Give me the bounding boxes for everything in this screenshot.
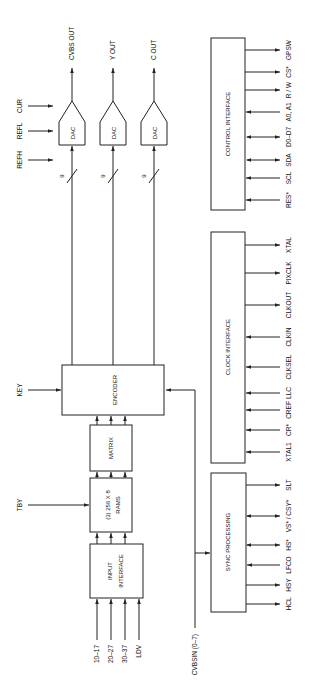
key-label: KEY xyxy=(16,383,23,397)
clock-interface-block: CLOCK INTERFACE XTAL PIXCLK CLKOUT CLKIN… xyxy=(211,232,292,463)
rams-label-line2: RAMS xyxy=(115,496,121,513)
slt-label: SLT xyxy=(285,479,292,490)
gpsw-label: GPSW xyxy=(285,39,292,60)
refh-label: REFH xyxy=(16,151,23,169)
cvbs-out-label: CVBS OUT xyxy=(68,27,75,60)
cvbsin-bus: CVBSIN (0–7) xyxy=(166,390,210,675)
sda-label: SDA xyxy=(285,153,292,167)
dac-2-label: DAC xyxy=(111,126,117,139)
hcl-label: HCL xyxy=(285,597,292,610)
a0-a1-label: A0, A1 xyxy=(285,102,292,122)
encoder-block: ENCODER KEY xyxy=(16,365,164,415)
dac-3: DAC C OUT xyxy=(141,40,167,145)
y-out-label: Y OUT xyxy=(109,40,116,60)
matrix-block: MATRIX xyxy=(90,416,132,471)
vs-csy-label: VS* / CSY* xyxy=(285,499,292,532)
cr-label: CR* xyxy=(285,424,292,436)
lfco-label: LFCO xyxy=(285,556,292,573)
sync-processing-block: SYNC PROCESSING SLT VS* / CSY* HS* LFCO … xyxy=(211,473,292,612)
control-interface-block: CONTROL INTERFACE GPSW CS* R / W A0, A1 … xyxy=(211,38,292,210)
tby-label: TBY xyxy=(16,498,23,511)
bus-width-2: 9 xyxy=(100,174,106,178)
dac-2: DAC Y OUT xyxy=(100,40,126,145)
input-10-17-label: 10–17 xyxy=(93,645,100,663)
input-20-27-label: 20–27 xyxy=(107,645,114,663)
c-out-label: C OUT xyxy=(150,40,157,60)
d0-d7-label: D0–D7 xyxy=(285,126,292,147)
matrix-label: MATRIX xyxy=(108,437,114,459)
input-30-37-label: 30–37 xyxy=(121,645,128,663)
dac-1-label: DAC xyxy=(70,126,76,139)
rams-block: (3) 256 X 8 RAMS TBY xyxy=(16,472,132,532)
input-interface-label-line1: INPUT xyxy=(107,562,113,580)
cref-label: CREF xyxy=(285,401,292,419)
control-interface-label: CONTROL INTERFACE xyxy=(225,92,231,156)
clkout-label: CLKOUT xyxy=(285,292,292,318)
cvbsin-label: CVBSIN (0–7) xyxy=(191,634,199,675)
cur-label: CUR xyxy=(16,99,23,113)
encoder-label: ENCODER xyxy=(112,374,118,405)
hsy-label: HSY xyxy=(285,578,292,592)
rw-label: R / W xyxy=(285,81,292,98)
ldv-label: LDV xyxy=(135,644,142,657)
dac-3-label: DAC xyxy=(152,126,158,139)
cs-label: CS* xyxy=(285,66,292,78)
xtal-label: XTAL xyxy=(285,237,292,253)
clock-interface-label: CLOCK INTERFACE xyxy=(225,319,231,375)
sync-processing-label: SYNC PROCESSING xyxy=(225,513,231,572)
scl-label: SCL xyxy=(285,171,292,184)
dac-reference-inputs: REFH REFL CUR xyxy=(16,99,53,169)
encoder-dac-buses: 9 9 9 xyxy=(59,146,159,365)
bus-width-1: 9 xyxy=(59,174,65,178)
block-diagram: REFH REFL CUR DAC CVBS OUT DAC Y OUT DAC… xyxy=(0,0,310,698)
input-interface-block: INPUT INTERFACE 10–17 20–27 30–37 LDV xyxy=(90,533,143,663)
clksel-label: CLKSEL xyxy=(285,354,292,379)
refl-label: REFL xyxy=(16,122,23,139)
bus-width-3: 9 xyxy=(141,174,147,178)
res-label: RES* xyxy=(285,192,292,208)
dac-1: DAC CVBS OUT xyxy=(59,27,85,145)
input-interface-label-line2: INTERFACE xyxy=(118,554,124,588)
rams-label-line1: (3) 256 X 8 xyxy=(105,489,111,519)
hs-label: HS* xyxy=(285,539,292,551)
clkin-label: CLKIN xyxy=(285,327,292,346)
pixclk-label: PIXCLK xyxy=(285,261,292,285)
llc-label: LLC xyxy=(285,387,292,399)
xtal1-label: XTAL1 xyxy=(285,442,292,462)
